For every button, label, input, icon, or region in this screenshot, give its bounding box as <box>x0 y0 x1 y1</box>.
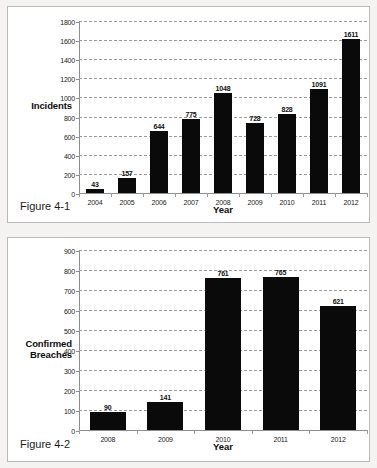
x-tick-mark <box>335 193 336 197</box>
bar-value-label: 728 <box>249 115 260 122</box>
bar-value-label: 1611 <box>344 31 358 38</box>
y-tick-label: 700 <box>64 287 75 294</box>
bar-group: 10912011 <box>303 21 335 193</box>
plot-area-1: 180016001400120010008006004002000 432004… <box>79 21 367 193</box>
x-tick-mark <box>143 193 144 197</box>
y-tick-label: 1600 <box>60 38 75 45</box>
x-tick-mark <box>271 193 272 197</box>
bar-value-label: 43 <box>91 181 98 188</box>
bar-group: 7752007 <box>175 21 207 193</box>
bar <box>246 123 264 193</box>
x-axis-title-year-2: Year <box>79 441 367 452</box>
x-tick-mark <box>303 193 304 197</box>
bar <box>182 119 200 193</box>
y-tick-label: 200 <box>64 171 75 178</box>
y-tick-label: 400 <box>64 152 75 159</box>
bar-group: 432004 <box>79 21 111 193</box>
x-tick-mark <box>175 193 176 197</box>
bar <box>147 402 183 430</box>
y-tick-label: 100 <box>64 407 75 414</box>
bar-group: 1412009 <box>137 250 195 430</box>
figure-panel-1: Incidents 180016001400120010008006004002… <box>7 6 370 223</box>
bar <box>90 412 126 430</box>
x-tick-mark <box>79 430 80 434</box>
figure-caption-2: Figure 4-2 <box>20 438 70 450</box>
bar-value-label: 621 <box>333 298 344 305</box>
gridline: 0 <box>79 430 367 431</box>
bar-group: 7282009 <box>239 21 271 193</box>
bar <box>118 178 136 193</box>
bar-group: 8282010 <box>271 21 303 193</box>
gridline: 0 <box>79 193 367 194</box>
bar-group: 7612010 <box>194 250 252 430</box>
bar <box>214 93 232 193</box>
x-tick-mark <box>309 430 310 434</box>
bar <box>205 278 241 430</box>
bar-group: 6212012 <box>309 250 367 430</box>
bar <box>310 89 328 193</box>
y-tick-label: 300 <box>64 368 75 375</box>
y-tick-label: 500 <box>64 327 75 334</box>
bar <box>150 131 168 193</box>
x-tick-mark <box>367 430 368 434</box>
bar-value-label: 644 <box>153 123 164 130</box>
y-tick-label: 1200 <box>60 76 75 83</box>
bar-series-incidents: 4320041572005644200677520071048200872820… <box>79 21 367 193</box>
bar-group: 1572005 <box>111 21 143 193</box>
bar-group: 902008 <box>79 250 137 430</box>
bar-value-label: 90 <box>104 404 111 411</box>
figures-page: Incidents 180016001400120010008006004002… <box>0 0 377 468</box>
x-tick-mark <box>367 193 368 197</box>
y-tick-label: 1000 <box>60 95 75 102</box>
bar-group: 6442006 <box>143 21 175 193</box>
bar-value-label: 761 <box>217 270 228 277</box>
bar <box>320 306 356 430</box>
bar-value-label: 141 <box>160 394 171 401</box>
y-tick-label: 400 <box>64 348 75 355</box>
y-tick-label: 1800 <box>60 19 75 26</box>
bar <box>86 189 104 193</box>
bar <box>278 114 296 193</box>
x-tick-mark <box>252 430 253 434</box>
bar <box>342 39 360 193</box>
plot-area-2: 9008007006005004003002001000 90200814120… <box>79 250 367 430</box>
bar-group: 10482008 <box>207 21 239 193</box>
bar-group: 7652011 <box>252 250 310 430</box>
x-tick-mark <box>111 193 112 197</box>
bar-value-label: 1091 <box>312 81 327 88</box>
x-tick-mark <box>194 430 195 434</box>
figure-caption-1: Figure 4-1 <box>20 200 70 212</box>
y-tick-label: 600 <box>64 308 75 315</box>
y-tick-label: 800 <box>64 114 75 121</box>
y-tick-label: 0 <box>71 191 75 198</box>
y-tick-label: 900 <box>64 248 75 255</box>
bar-value-label: 157 <box>121 170 132 177</box>
bar-group: 16112012 <box>335 21 367 193</box>
bar-series-confirmed-breaches: 9020081412009761201076520116212012 <box>79 250 367 430</box>
x-axis-title-year-1: Year <box>79 204 367 215</box>
y-tick-label: 1400 <box>60 57 75 64</box>
chart-figure-4-2: Confirmed Breaches 900800700600500400300… <box>8 238 369 461</box>
bar-value-label: 828 <box>281 106 292 113</box>
y-tick-label: 800 <box>64 267 75 274</box>
chart-figure-4-1: Incidents 180016001400120010008006004002… <box>8 7 369 222</box>
x-tick-mark <box>79 193 80 197</box>
x-tick-mark <box>137 430 138 434</box>
figure-panel-2: Confirmed Breaches 900800700600500400300… <box>7 237 370 462</box>
bar <box>263 277 299 430</box>
y-tick-label: 200 <box>64 388 75 395</box>
bar-value-label: 1048 <box>216 85 231 92</box>
y-tick-label: 600 <box>64 133 75 140</box>
bar-value-label: 765 <box>275 269 286 276</box>
x-tick-mark <box>207 193 208 197</box>
x-tick-mark <box>239 193 240 197</box>
y-tick-label: 0 <box>71 428 75 435</box>
bar-value-label: 775 <box>185 111 196 118</box>
